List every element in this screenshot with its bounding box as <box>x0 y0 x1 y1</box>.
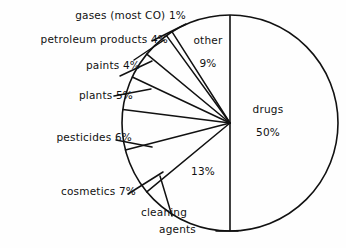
slice-label-plants: plants 5% <box>0 90 133 101</box>
slice-label-pesticides: pesticides 6% <box>0 132 132 143</box>
slice-label-gases: gases (most CO) 1% <box>0 10 186 21</box>
slice-label-cleaning-agents-value: 13% <box>186 166 220 177</box>
slice-label-drugs-value: 50% <box>245 127 291 138</box>
slice-label-paints: paints 4% <box>0 60 140 71</box>
pie-chart-figure: gases (most CO) 1% petroleum products 4%… <box>0 0 346 248</box>
slice-label-cleaning-agents-line1: cleaning <box>141 207 231 218</box>
slice-label-drugs-name: drugs <box>245 104 291 115</box>
slice-label-cleaning-agents-line2: agents <box>159 224 249 235</box>
slice-label-petroleum-products: petroleum products 4% <box>0 34 168 45</box>
slice-label-other-name: other <box>186 35 230 46</box>
wedge-divider-gases-petroleum <box>167 36 231 123</box>
slice-label-cosmetics: cosmetics 7% <box>0 186 136 197</box>
slice-label-other-value: 9% <box>186 58 230 69</box>
